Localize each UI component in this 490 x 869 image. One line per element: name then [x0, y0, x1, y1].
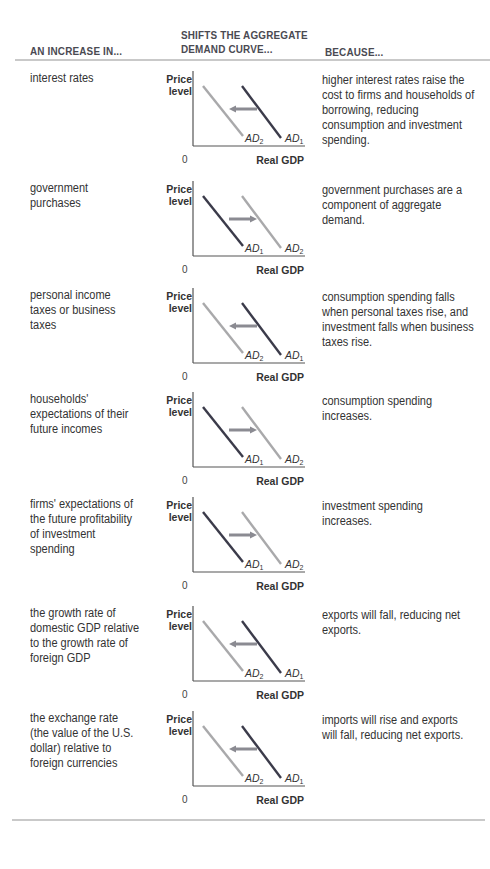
ad2-curve: [242, 407, 281, 459]
curve-label-right: AD2: [285, 453, 304, 466]
x-axis-label: Real GDP: [250, 475, 304, 487]
ad1-curve: [242, 726, 281, 778]
arrowhead-icon: [229, 323, 236, 330]
x-axis-label: Real GDP: [250, 371, 304, 383]
origin-label: 0: [182, 264, 188, 275]
curve-label-left: AD2: [245, 772, 264, 785]
arrowhead-icon: [229, 106, 236, 113]
cause-text: government purchases: [30, 181, 140, 211]
reason-text: consumption spending falls when personal…: [322, 290, 476, 350]
column-header-because: BECAUSE...: [325, 45, 383, 59]
reason-text: investment spending increases.: [322, 499, 476, 529]
curve-label-right: AD1: [285, 772, 304, 785]
column-header-shift-line1: SHIFTS THE AGGREGATE: [181, 28, 308, 42]
cause-text: interest rates: [30, 71, 140, 86]
ad2-curve: [242, 196, 281, 248]
ad1-curve: [242, 621, 281, 673]
x-axis-label: Real GDP: [250, 580, 304, 592]
cause-text: the exchange rate (the value of the U.S.…: [30, 711, 140, 771]
arrowhead-icon: [229, 641, 236, 648]
curve-label-left: AD1: [245, 242, 264, 255]
origin-label: 0: [182, 154, 188, 165]
ad-shift-graph: Price level AD2 AD1 0 Real GDP: [155, 286, 315, 386]
reason-text: government purchases are a component of …: [322, 183, 476, 228]
column-header-shift-line2: DEMAND CURVE...: [181, 42, 273, 56]
ad1-curve: [203, 196, 243, 246]
header-divider: [15, 59, 490, 61]
origin-label: 0: [182, 475, 188, 486]
x-axis-label: Real GDP: [250, 794, 304, 806]
column-header-increase: AN INCREASE IN...: [30, 44, 122, 58]
cause-text: the growth rate of domestic GDP relative…: [30, 606, 140, 666]
ad-shift-graph: Price level AD2 AD1 0 Real GDP: [155, 604, 315, 704]
origin-label: 0: [182, 794, 188, 805]
curve-label-right: AD2: [285, 242, 304, 255]
origin-label: 0: [182, 580, 188, 591]
curve-label-left: AD2: [245, 349, 264, 362]
ad-shift-graph: Price level AD1 AD2 0 Real GDP: [155, 495, 315, 595]
ad2-curve: [203, 86, 243, 136]
ad-shift-graph: Price level AD2 AD1 0 Real GDP: [155, 709, 315, 809]
curve-label-left: AD1: [245, 558, 264, 571]
arrowhead-icon: [229, 746, 236, 753]
curve-label-right: AD1: [285, 132, 304, 145]
ad-shift-graph: Price level AD1 AD2 0 Real GDP: [155, 390, 315, 490]
x-axis-label: Real GDP: [250, 689, 304, 701]
cause-text: personal income taxes or business taxes: [30, 288, 140, 333]
curve-label-right: AD1: [285, 349, 304, 362]
ad2-curve: [242, 512, 281, 564]
footer-divider: [12, 819, 485, 821]
ad2-curve: [203, 621, 243, 671]
reason-text: higher interest rates raise the cost to …: [322, 73, 476, 148]
ad1-curve: [203, 512, 243, 562]
origin-label: 0: [182, 689, 188, 700]
ad1-curve: [242, 86, 281, 138]
curve-label-left: AD1: [245, 453, 264, 466]
ad1-curve: [242, 303, 281, 355]
ad-shift-graph: Price level AD2 AD1 0 Real GDP: [155, 69, 315, 169]
ad2-curve: [203, 303, 243, 353]
reason-text: imports will rise and exports will fall,…: [322, 713, 476, 743]
curve-label-left: AD2: [245, 667, 264, 680]
reason-text: exports will fall, reducing net exports.: [322, 608, 476, 638]
curve-label-left: AD2: [245, 132, 264, 145]
x-axis-label: Real GDP: [250, 154, 304, 166]
ad-shift-graph: Price level AD1 AD2 0 Real GDP: [155, 179, 315, 279]
curve-label-right: AD1: [285, 667, 304, 680]
ad2-curve: [203, 726, 243, 776]
origin-label: 0: [182, 371, 188, 382]
cause-text: firms' expectations of the future profit…: [30, 497, 140, 557]
x-axis-label: Real GDP: [250, 264, 304, 276]
curve-label-right: AD2: [285, 558, 304, 571]
reason-text: consumption spending increases.: [322, 394, 476, 424]
cause-text: households' expectations of their future…: [30, 392, 140, 437]
ad1-curve: [203, 407, 243, 457]
